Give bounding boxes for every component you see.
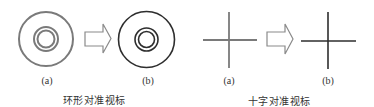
arrow-right-icon: [85, 24, 111, 53]
ring-label-a: (a): [41, 75, 52, 86]
cross-target-a: [203, 12, 257, 68]
cross-target-b: [301, 12, 356, 69]
arrow-right-icon: [267, 24, 293, 54]
ring-target-a: [19, 12, 73, 66]
cross-label-b: (b): [322, 75, 334, 86]
ring-target-b: [119, 12, 175, 68]
cross-label-a: (a): [223, 75, 234, 86]
alignment-targets-diagram: [0, 0, 374, 106]
ring-label-b: (b): [142, 75, 154, 86]
ring-caption: 环形对准视标: [63, 92, 126, 107]
cross-caption: 十字对准视标: [248, 93, 311, 107]
